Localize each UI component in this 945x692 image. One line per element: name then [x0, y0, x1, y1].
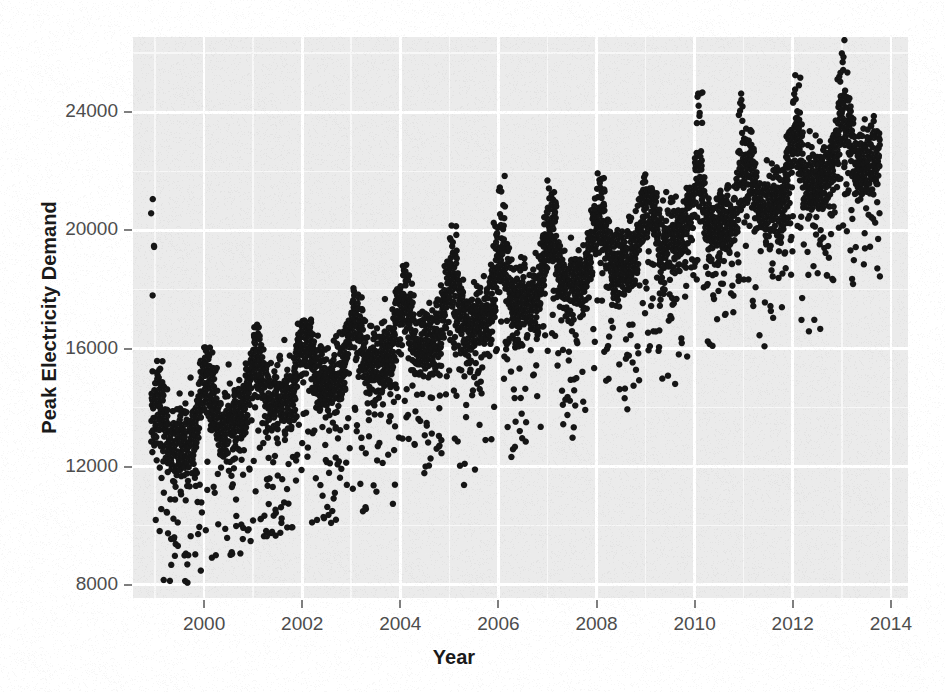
x-tick-label: 2004 — [350, 613, 450, 635]
x-tick-mark — [399, 600, 401, 608]
x-tick-mark — [792, 600, 794, 608]
y-tick-mark — [124, 229, 132, 231]
x-tick-mark — [890, 600, 892, 608]
x-tick-label: 2010 — [645, 613, 745, 635]
x-tick-mark — [301, 600, 303, 608]
x-tick-label: 2008 — [547, 613, 647, 635]
plot-panel — [133, 37, 908, 598]
x-tick-mark — [203, 600, 205, 608]
x-tick-label: 2006 — [448, 613, 548, 635]
x-tick-label: 2014 — [841, 613, 941, 635]
x-tick-mark — [596, 600, 598, 608]
y-tick-mark — [124, 348, 132, 350]
y-axis-title: Peak Electricity Demand — [38, 37, 61, 598]
x-axis-title: Year — [0, 646, 908, 669]
scatter-points — [133, 37, 908, 598]
x-tick-label: 2012 — [743, 613, 843, 635]
y-tick-mark — [124, 111, 132, 113]
y-tick-mark — [124, 466, 132, 468]
chart-figure: Computer-Use of a model that predicts wh… — [0, 0, 945, 692]
x-tick-label: 2000 — [154, 613, 254, 635]
y-tick-mark — [124, 584, 132, 586]
x-tick-label: 2002 — [252, 613, 352, 635]
x-tick-mark — [694, 600, 696, 608]
x-tick-mark — [497, 600, 499, 608]
